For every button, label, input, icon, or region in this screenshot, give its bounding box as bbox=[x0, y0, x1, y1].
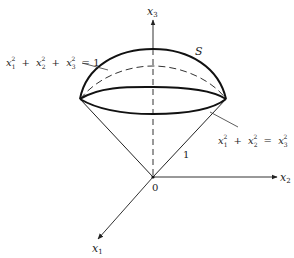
x1-axis bbox=[98, 177, 153, 239]
cone-equation: x12 + x22 = x32 bbox=[218, 130, 288, 148]
x3-axis-label: x3 bbox=[147, 5, 158, 19]
cone-leader-line bbox=[210, 112, 238, 127]
x1-axis-label: x1 bbox=[92, 242, 103, 256]
slant-length-label: 1 bbox=[183, 149, 189, 160]
origin-label: 0 bbox=[152, 182, 158, 193]
surface-label-s: S bbox=[195, 45, 203, 58]
x2-axis-label: x2 bbox=[280, 171, 291, 185]
sphere-equation: x12 + x22 + x32 = 1 bbox=[6, 52, 100, 70]
origin-point bbox=[151, 175, 154, 178]
ice-cream-cone-diagram: x3 x2 x1 0 S 1 x12 + x22 + x32 = 1 x12 +… bbox=[0, 0, 294, 258]
